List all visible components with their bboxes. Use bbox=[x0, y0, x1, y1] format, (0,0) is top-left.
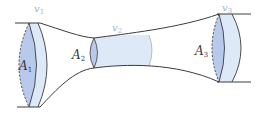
pipe-flow-diagram: v1 v2 v3 A1 A2 A3 bbox=[0, 0, 265, 115]
label-A2: A2 bbox=[71, 48, 85, 63]
label-v3: v3 bbox=[222, 2, 232, 15]
label-A3: A3 bbox=[194, 44, 208, 59]
section-2 bbox=[90, 35, 152, 68]
label-v1: v1 bbox=[34, 3, 44, 16]
label-v2: v2 bbox=[112, 22, 122, 35]
section-3 bbox=[212, 14, 251, 82]
